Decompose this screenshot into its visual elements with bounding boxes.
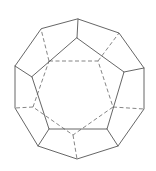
hidden-edge [98,33,119,61]
visible-edge [107,129,118,146]
hidden-edge [41,29,49,61]
hidden-edge [15,107,33,108]
dodecahedron-diagram [0,0,156,171]
visible-edge [77,19,78,38]
visible-edge [38,129,49,146]
dodecahedron-figure [0,0,156,171]
hidden-edge [113,107,144,109]
visible-edge [15,66,32,77]
visible-edges [15,19,144,159]
hidden-edge [73,135,77,159]
front-face-pentagon [32,38,124,129]
back-face-pentagon [33,61,113,135]
visible-edge [124,68,144,72]
